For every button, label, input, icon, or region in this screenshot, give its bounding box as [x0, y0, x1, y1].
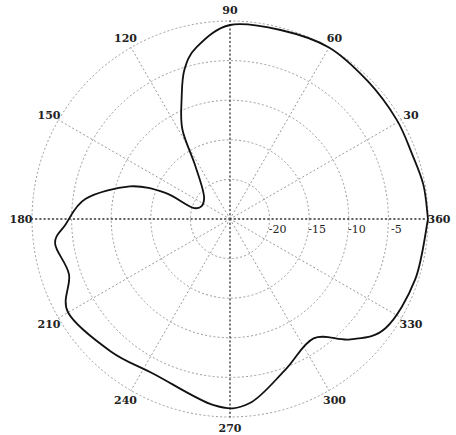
angle-label: 300 — [323, 394, 346, 407]
angle-label: 360 — [428, 213, 451, 226]
angle-label: 60 — [327, 32, 343, 45]
angle-label: 30 — [403, 109, 419, 122]
grid-spoke — [59, 219, 230, 318]
angle-label: 240 — [114, 394, 137, 407]
angle-label: 120 — [114, 32, 137, 45]
grid-spoke — [59, 120, 230, 219]
grid-spoke — [230, 48, 329, 219]
angle-label: 150 — [38, 109, 61, 122]
grid-spoke — [131, 48, 230, 219]
angle-label: 180 — [10, 213, 33, 226]
radial-label: -15 — [308, 223, 326, 236]
polar-chart: 306090120150180210240270300330360 -20-15… — [0, 0, 456, 435]
radial-tick-labels: -20-15-10-5 — [269, 223, 402, 236]
grid-spoke — [230, 219, 329, 390]
radial-label: -10 — [348, 223, 366, 236]
radial-label: -20 — [269, 223, 287, 236]
radial-label: -5 — [391, 223, 402, 236]
angle-label: 90 — [222, 4, 238, 17]
grid-spoke — [230, 120, 401, 219]
angle-label: 270 — [219, 422, 242, 435]
angle-label: 210 — [38, 318, 61, 331]
angular-grid-spokes — [32, 21, 428, 417]
angle-label: 330 — [400, 318, 423, 331]
pattern-trace — [55, 24, 428, 408]
grid-spoke — [131, 219, 230, 390]
